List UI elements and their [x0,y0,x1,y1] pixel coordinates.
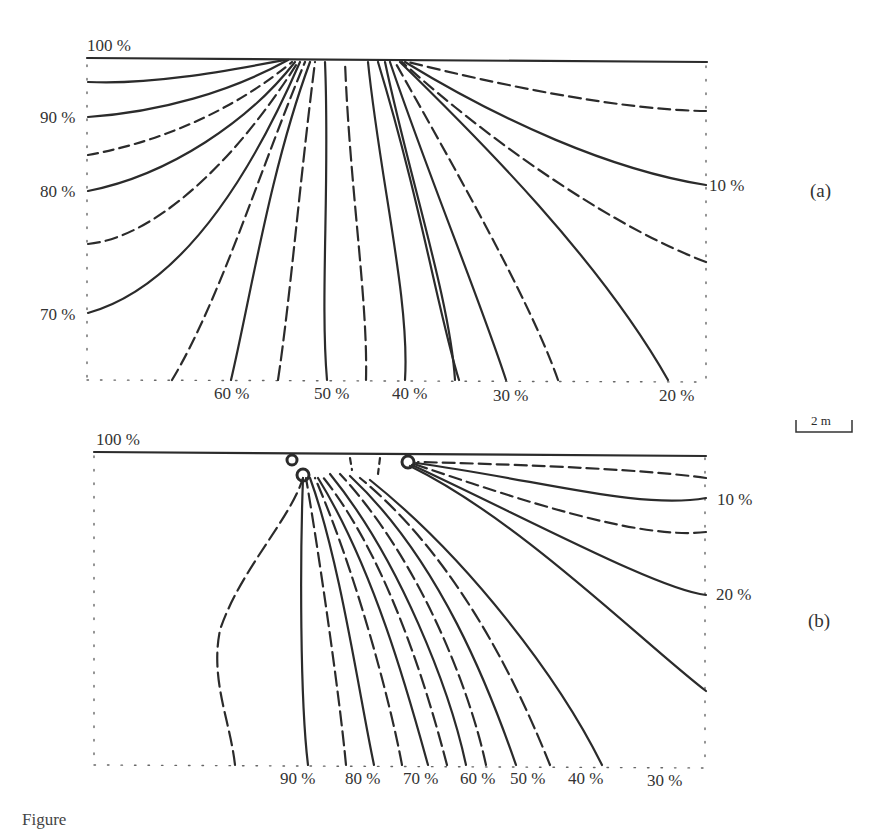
panel-a-bottom-label-20: 20 % [659,386,694,406]
panel-b-top-label: 100 % [96,430,140,450]
panel-a-bottom-label-40: 40 % [392,384,427,404]
panel-a-right-label-10: 10 % [709,176,744,196]
panel-b-bottom-label-70: 70 % [403,769,438,789]
panel-b-right-label-10: 10 % [717,490,752,510]
panel-a-tag: (a) [810,180,831,202]
panel-a-top-label: 100 % [87,36,131,56]
panel-b-bottom-label-80: 80 % [345,769,380,789]
panel-a-bottom-label-50: 50 % [314,384,349,404]
panel-a-bottom-label-60: 60 % [214,384,249,404]
panel-b-bottom-label-90: 90 % [280,769,315,789]
scale-bar-label: 2 m [811,413,831,429]
panel-a-left-label-90: 90 % [40,108,75,128]
panel-a-left-label-70: 70 % [40,305,75,325]
panel-b-tag: (b) [808,610,830,632]
panel-b-bottom-label-30: 30 % [647,771,682,791]
panel-b-bottom-label-60: 60 % [460,769,495,789]
panel-a-left-label-80: 80 % [40,182,75,202]
panel-b-right-label-20: 20 % [716,585,751,605]
panel-b-bottom-label-50: 50 % [510,769,545,789]
figure-caption: Figure [22,810,66,830]
panel-b-bottom-label-40: 40 % [568,769,603,789]
panel-a-bottom-label-30: 30 % [493,386,528,406]
